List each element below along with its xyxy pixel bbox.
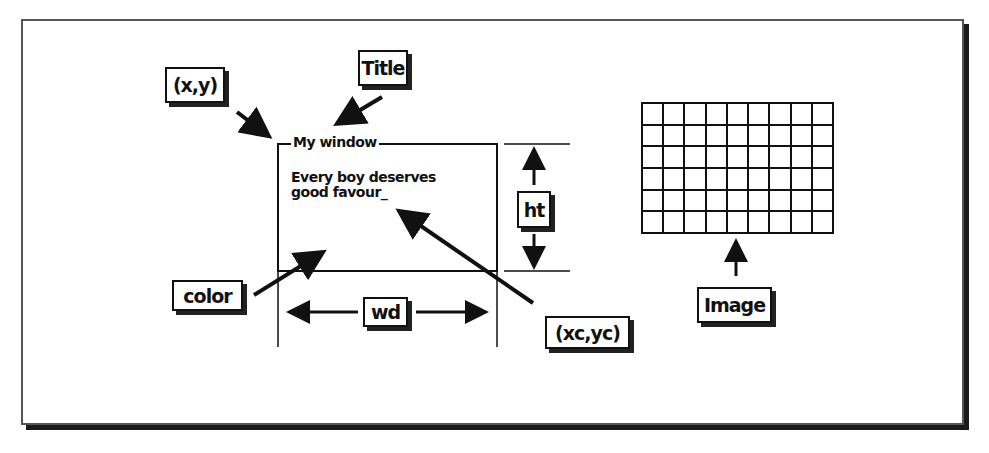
label-image: Image (697, 287, 772, 323)
label-title: Title (358, 50, 408, 86)
window-rect (278, 144, 497, 271)
xcyc-arrow (402, 213, 533, 303)
window-text-line2: good favour_ (291, 185, 436, 200)
label-ht: ht (517, 191, 551, 228)
title-arrow (340, 97, 382, 122)
diagram-lines (0, 0, 989, 453)
label-xy: (x,y) (165, 67, 225, 103)
color-arrow (254, 254, 320, 295)
window-text-line1: Every boy deserves (291, 170, 436, 185)
label-color: color (172, 280, 243, 311)
window-text: Every boy deserves good favour_ (291, 170, 436, 200)
window-title: My window (291, 134, 379, 150)
label-xcyc: (xc,yc) (545, 316, 630, 349)
label-wd: wd (363, 297, 408, 327)
xy-arrow (237, 112, 266, 134)
image-grid (642, 103, 833, 233)
